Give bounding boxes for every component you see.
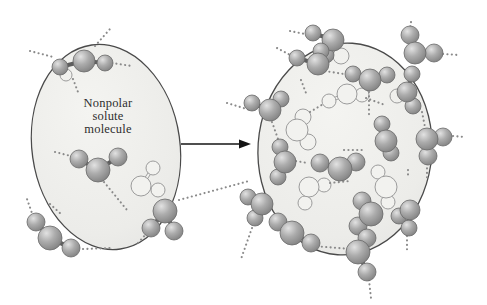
oxygen-atom [359, 69, 381, 91]
hydrogen-atom [146, 161, 160, 175]
hydrogen-atom [305, 25, 321, 41]
hydrogen-atom [165, 222, 183, 240]
oxygen-atom [274, 151, 296, 173]
water-molecule [401, 26, 443, 64]
oxygen-atom [397, 82, 417, 102]
solute-label: Nonpolar solute molecule [48, 97, 168, 137]
hydrogen-atom [289, 50, 305, 66]
oxygen-atom [346, 240, 370, 264]
hydrogen-atom [244, 95, 260, 111]
oxygen-atom [131, 176, 151, 196]
hydrogen-atom [70, 150, 88, 168]
oxygen-atom [375, 130, 397, 152]
oxygen-atom [307, 53, 329, 75]
oxygen-atom [280, 221, 304, 245]
water-molecule [240, 189, 273, 226]
hydrogen-bond-dots [241, 228, 252, 259]
hydrogen-bond-dots [30, 51, 53, 57]
oxygen-atom [286, 119, 308, 141]
oxygen-atom [328, 157, 352, 181]
hydrogen-bond-dots [443, 54, 459, 55]
oxygen-atom [38, 226, 62, 250]
oxygen-atom [416, 128, 438, 150]
oxygen-atom [86, 158, 110, 182]
hydrogen-atom [298, 196, 312, 210]
hydrogen-atom [151, 183, 165, 197]
reaction-arrow [181, 140, 251, 149]
hydrogen-atom [345, 66, 361, 82]
oxygen-atom [404, 42, 426, 64]
hydrogen-bond-dots [369, 280, 371, 298]
oxygen-atom [259, 99, 281, 121]
reaction-arrow-head [239, 140, 251, 149]
oxygen-atom [299, 177, 319, 197]
hydrogen-bond-dots [179, 181, 249, 200]
oxygen-atom [400, 200, 420, 220]
hydrogen-atom [425, 44, 443, 62]
hydration-diagram: Nonpolar solute molecule [0, 0, 487, 305]
oxygen-atom [337, 84, 357, 104]
hydrogen-bond-dots [290, 31, 305, 34]
hydrogen-atom [401, 220, 417, 236]
hydrogen-atom [62, 239, 80, 257]
oxygen-atom [153, 199, 177, 223]
hydrogen-atom [358, 263, 376, 281]
oxygen-atom [375, 176, 397, 198]
hydrogen-atom [374, 116, 390, 132]
oxygen-atom [251, 193, 273, 215]
hydrogen-atom [404, 66, 420, 82]
hydrogen-atom [109, 148, 127, 166]
hydrogen-bond-dots [453, 136, 465, 137]
hydrogen-atom [302, 234, 320, 252]
water-molecule [416, 128, 452, 165]
hydrogen-bond-dots [95, 29, 110, 46]
hydrogen-atom [311, 154, 329, 172]
hydrogen-atom [379, 67, 395, 83]
hydrogen-atom [401, 26, 419, 44]
hydrated-solute-panel [240, 22, 465, 298]
hydrogen-atom [322, 94, 336, 108]
hydrogen-atom [52, 59, 68, 75]
figure-canvas [0, 0, 487, 305]
solute-label-line: molecule [48, 123, 168, 136]
oxygen-atom [359, 202, 383, 226]
hydrogen-atom [97, 55, 113, 71]
hydrogen-atom [142, 219, 160, 237]
oxygen-atom [73, 50, 95, 72]
